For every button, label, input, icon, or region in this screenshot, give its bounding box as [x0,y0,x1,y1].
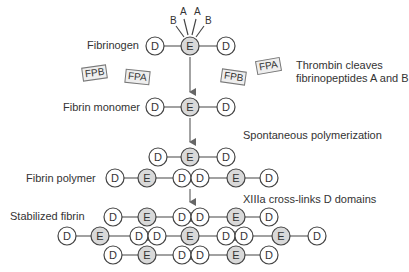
d-domain: D [151,101,159,113]
e-domain: E [232,249,239,261]
e-domain: E [143,249,150,261]
e-domain: E [186,40,193,52]
d-domain: D [111,172,119,184]
fibrin-polymer: D E D D E D D E D [106,148,278,187]
annotation-crosslink: XIIIa cross-links D domains [243,193,376,206]
stage-label-stabilized-fibrin: Stabilized fibrin [10,210,85,223]
e-domain: E [232,172,239,184]
d-domain: D [151,40,159,52]
d-domain: D [196,172,204,184]
e-domain: E [186,101,193,113]
stage-label-fibrin-monomer: Fibrin monomer [63,101,140,114]
d-domain: D [178,249,186,261]
e-domain: E [96,230,103,242]
peptide-a-left: A [180,6,187,17]
peptide-a-right: A [194,6,201,17]
d-domain: D [109,211,117,223]
d-domain: D [154,151,162,163]
e-domain: E [143,211,150,223]
e-domain: E [143,172,150,184]
d-domain: D [178,211,186,223]
peptide-b-left: B [170,15,177,26]
d-domain: D [222,151,230,163]
d-domain: D [222,101,230,113]
d-domain: D [222,230,230,242]
peptide-b-right: B [205,15,212,26]
fibrinogen-molecule: D E D [146,37,235,55]
annotation-thrombin-line1: Thrombin cleaves [296,59,383,72]
d-domain: D [153,230,161,242]
d-domain: D [240,230,248,242]
e-domain: E [186,230,193,242]
annotation-thrombin-line2: fibrinopeptides A and B [296,72,409,85]
d-domain: D [63,230,71,242]
stage-label-fibrin-polymer: Fibrin polymer [26,172,96,185]
fibrinopeptide-a-tag: FPA [124,69,150,86]
e-domain: E [186,151,193,163]
d-domain: D [135,230,143,242]
stabilized-fibrin: D E D D E D D E D D E D D E D D E D D E [58,208,326,264]
d-domain: D [265,211,273,223]
d-domain: D [265,249,273,261]
d-domain: D [265,172,273,184]
d-domain: D [196,211,204,223]
d-domain: D [196,249,204,261]
d-domain: D [178,172,186,184]
stage-label-fibrinogen: Fibrinogen [87,39,139,52]
e-domain: E [277,230,284,242]
d-domain: D [313,230,321,242]
annotation-polymerization: Spontaneous polymerization [243,129,382,142]
d-domain: D [222,40,230,52]
d-domain: D [109,249,117,261]
e-domain: E [232,211,239,223]
fibrin-monomer-molecule: D E D [146,98,235,116]
